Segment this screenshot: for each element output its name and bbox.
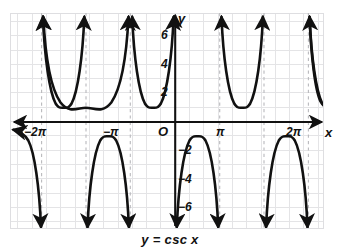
plot-background: [10, 13, 323, 228]
y-tick-label-neg-6: −6: [178, 201, 192, 213]
x-tick-label-neg-2pi: −2π: [24, 126, 46, 138]
graph-figure: −2π −π O π 2π x y 6 4 2 −2 −4 −6 y = csc…: [0, 0, 340, 251]
y-tick-label-neg-4: −4: [178, 173, 192, 185]
y-tick-label-neg-2: −2: [178, 144, 192, 156]
y-axis-label: y: [178, 12, 185, 25]
x-tick-label-neg-pi: −π: [103, 126, 119, 138]
x-tick-label-pi: π: [216, 126, 225, 138]
x-tick-label-2pi: 2π: [286, 126, 301, 138]
figure-caption: y = csc x: [0, 232, 340, 247]
x-axis-label: x: [325, 126, 332, 139]
origin-label: O: [158, 125, 168, 138]
y-tick-label-6: 6: [161, 29, 168, 41]
y-tick-label-2: 2: [161, 86, 168, 98]
y-tick-label-4: 4: [161, 58, 168, 70]
